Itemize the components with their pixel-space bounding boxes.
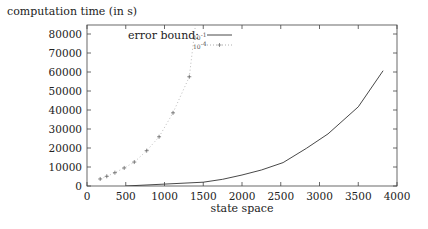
plus-marker-icon: [113, 171, 117, 175]
y-tick-label: 50000: [49, 85, 82, 97]
plus-marker-icon: [122, 166, 126, 170]
y-tick-label: 60000: [49, 66, 82, 78]
y-axis-title: computation time (in s): [7, 5, 137, 18]
y-tick-label: 70000: [49, 47, 82, 59]
y-tick-label: 80000: [49, 28, 82, 40]
x-tick-label: 0: [84, 190, 91, 202]
x-axis-title: state space: [211, 202, 274, 215]
plus-marker-icon: [98, 177, 102, 181]
x-tick-label: 2000: [229, 190, 256, 202]
x-tick-label: 3000: [306, 190, 333, 202]
series-line-solid: [126, 71, 383, 186]
x-tick-label: 500: [116, 190, 136, 202]
x-tick-label: 3500: [345, 190, 372, 202]
y-tick-label: 0: [75, 180, 82, 192]
x-tick-label: 2500: [267, 190, 294, 202]
plus-marker-icon: [132, 160, 136, 164]
x-tick-label: 4000: [384, 190, 411, 202]
axis-ticks: 0500100015002000250030003500400001000020…: [49, 25, 411, 202]
legend-title: error bound:: [128, 29, 199, 42]
legend-dotted-plus-icon: [207, 43, 232, 47]
plus-marker-icon: [105, 174, 109, 178]
y-tick-label: 40000: [49, 104, 82, 116]
plus-marker-icon: [187, 75, 191, 79]
series-line-dotted: [100, 25, 195, 180]
x-tick-label: 1500: [190, 190, 217, 202]
y-tick-label: 10000: [49, 161, 82, 173]
y-tick-label: 30000: [49, 123, 82, 135]
y-tick-label: 20000: [49, 142, 82, 154]
x-tick-label: 1000: [151, 190, 178, 202]
chart: computation time (in s) state space 0500…: [0, 0, 428, 229]
plus-marker-icon: [171, 111, 175, 115]
series-group: [98, 25, 383, 187]
legend: error bound: 10-1 10-4: [128, 29, 232, 50]
plus-marker-icon: [157, 135, 161, 139]
